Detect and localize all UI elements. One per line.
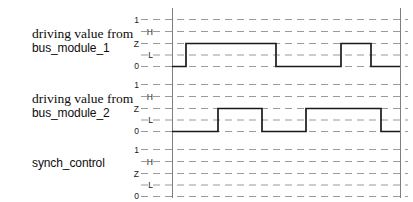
waveform-plot xyxy=(0,0,413,202)
timing-diagram: driving value from bus_module_1 driving … xyxy=(0,0,413,202)
